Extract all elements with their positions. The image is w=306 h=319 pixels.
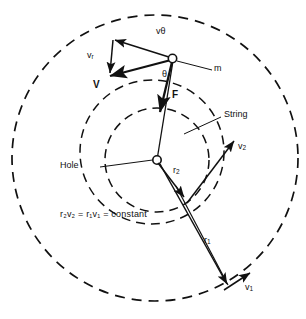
m-label: m xyxy=(214,64,222,73)
r2-label: r2 xyxy=(173,166,180,176)
hole-leader-line xyxy=(100,160,153,167)
v-r-vector xyxy=(110,40,113,73)
diagram-canvas xyxy=(0,0,306,319)
m-leader-line xyxy=(177,61,212,70)
hole-point xyxy=(153,156,161,164)
string-label: String xyxy=(224,110,248,119)
v1-label: v1 xyxy=(245,283,253,293)
theta-label: θ xyxy=(162,70,167,79)
trajectory-line xyxy=(176,186,228,285)
physics-diagram: vθ vr V θ F m String Hole r2 v2 r1 v1 r₂… xyxy=(0,0,306,319)
v2-label: v2 xyxy=(238,142,246,152)
conservation-equation: r₂v₂ = r₁v₁ = constant xyxy=(60,210,147,219)
v-theta-vector xyxy=(115,40,172,58)
v-theta-label: vθ xyxy=(156,27,166,36)
V-label: V xyxy=(93,80,100,90)
string-leader-line xyxy=(184,117,221,134)
r1-label: r1 xyxy=(204,236,211,246)
v2-vector xyxy=(187,141,234,203)
F-label: F xyxy=(172,90,178,100)
mass-point xyxy=(168,54,176,62)
mid-orbit-circle xyxy=(80,80,224,224)
hole-label: Hole xyxy=(60,161,79,170)
v-r-label: vr xyxy=(87,51,94,61)
